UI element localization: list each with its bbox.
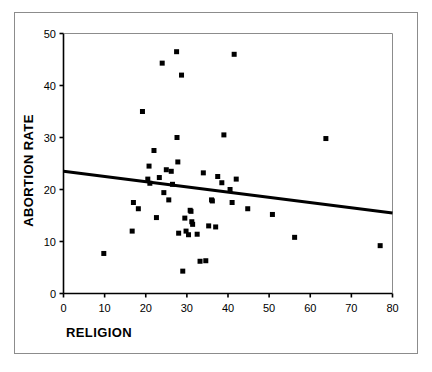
data-point <box>245 206 250 211</box>
data-point <box>182 216 187 221</box>
data-point <box>232 52 237 57</box>
data-point <box>147 181 152 186</box>
data-point <box>175 159 180 164</box>
x-tick-label: 40 <box>222 302 234 314</box>
x-tick-label: 60 <box>304 302 316 314</box>
x-tick-label: 70 <box>345 302 357 314</box>
data-point <box>323 136 328 141</box>
y-axis-label: ABORTION RATE <box>21 101 36 241</box>
data-point <box>164 167 169 172</box>
data-point <box>136 206 141 211</box>
data-point <box>270 212 275 217</box>
data-point <box>180 269 185 274</box>
data-point <box>176 231 181 236</box>
y-tick-label: 40 <box>28 80 56 92</box>
y-tick-label: 0 <box>28 288 56 300</box>
data-point <box>219 180 224 185</box>
x-tick-label: 0 <box>60 302 66 314</box>
data-point <box>198 259 203 264</box>
data-points <box>101 49 382 273</box>
data-point <box>234 177 239 182</box>
data-point <box>179 73 184 78</box>
data-point <box>160 61 165 66</box>
data-point <box>195 232 200 237</box>
data-point <box>201 170 206 175</box>
x-tick-label: 20 <box>140 302 152 314</box>
y-tick-label: 50 <box>28 28 56 40</box>
data-point <box>221 132 226 137</box>
data-point <box>188 209 193 214</box>
data-point <box>203 258 208 263</box>
x-tick-label: 80 <box>386 302 398 314</box>
data-point <box>213 224 218 229</box>
data-point <box>186 232 191 237</box>
data-point <box>131 200 136 205</box>
data-point <box>292 235 297 240</box>
regression-line <box>64 171 393 213</box>
data-point <box>210 198 215 203</box>
data-point <box>174 49 179 54</box>
data-point <box>215 174 220 179</box>
data-point <box>166 197 171 202</box>
data-point <box>190 222 195 227</box>
data-point <box>230 200 235 205</box>
axes <box>60 34 393 298</box>
x-tick-label: 50 <box>263 302 275 314</box>
data-point <box>151 148 156 153</box>
x-tick-label: 30 <box>181 302 193 314</box>
data-point <box>170 182 175 187</box>
data-point <box>378 243 383 248</box>
data-point <box>130 229 135 234</box>
x-axis-label: RELIGION <box>66 325 132 340</box>
data-point <box>101 251 106 256</box>
data-point <box>154 215 159 220</box>
data-point <box>206 223 211 228</box>
plot-canvas <box>0 0 432 372</box>
data-point <box>157 175 162 180</box>
data-point <box>147 164 152 169</box>
data-point <box>175 135 180 140</box>
data-point <box>161 190 166 195</box>
data-point <box>140 109 145 114</box>
trend-line-segment <box>64 171 393 213</box>
data-point <box>169 169 174 174</box>
data-point <box>228 187 233 192</box>
scatter-plot-figure: 0102030405001020304050607080 ABORTION RA… <box>0 0 432 372</box>
x-tick-label: 10 <box>99 302 111 314</box>
